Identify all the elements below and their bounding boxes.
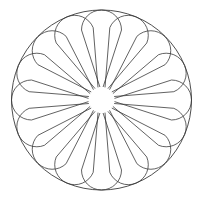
petal — [110, 108, 171, 169]
petal — [32, 108, 93, 169]
petal — [55, 111, 98, 184]
petal — [32, 31, 93, 92]
petal — [115, 80, 192, 120]
petal — [110, 31, 171, 92]
rosette-figure — [0, 0, 203, 203]
rosette-svg — [0, 0, 203, 203]
petal — [17, 104, 90, 147]
petals-group — [12, 10, 192, 190]
petal — [17, 53, 90, 96]
petal — [82, 10, 122, 87]
petal — [105, 111, 148, 184]
outer-circle — [12, 10, 192, 190]
petal — [113, 53, 186, 96]
petal — [82, 113, 122, 190]
petal — [113, 104, 186, 147]
petal — [105, 15, 148, 88]
petal — [12, 80, 89, 120]
petal — [55, 15, 98, 88]
